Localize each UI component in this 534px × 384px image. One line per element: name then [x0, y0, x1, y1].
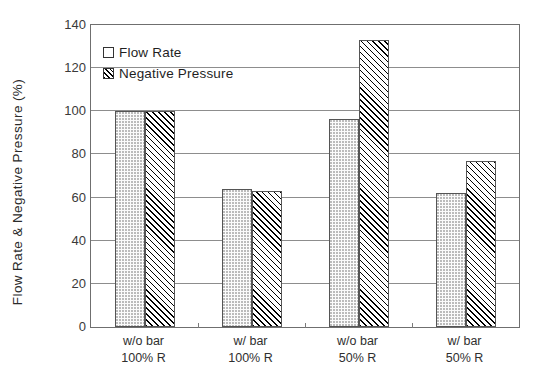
x-label-line-2: 50% R [304, 350, 411, 367]
dotted-square-icon [103, 47, 114, 58]
y-axis-tick-label: 20 [46, 275, 86, 290]
x-label-line-1: w/o bar [337, 334, 378, 348]
legend-item-label: Flow Rate [119, 45, 182, 60]
x-label-line-1: w/ bar [447, 334, 481, 348]
y-axis-tick-label: 120 [46, 60, 86, 75]
y-axis-tick-label: 100 [46, 103, 86, 118]
y-axis-tick-labels: 020406080100120140 [42, 24, 86, 328]
x-label-line-2: 100% R [90, 350, 197, 367]
y-axis-tick-label: 80 [46, 146, 86, 161]
x-axis-category-label: w/o bar100% R [90, 333, 197, 367]
bar-negative-pressure [252, 191, 282, 327]
y-axis-tick-label: 140 [46, 17, 86, 32]
x-axis-category-label: w/ bar100% R [197, 333, 304, 367]
x-axis-category-label: w/o bar50% R [304, 333, 411, 367]
bar-negative-pressure [359, 40, 389, 327]
x-label-line-2: 50% R [411, 350, 518, 367]
y-axis-tick-label: 60 [46, 189, 86, 204]
hatched-square-icon [103, 68, 114, 79]
y-axis-tick-label: 0 [46, 319, 86, 334]
x-axis-category-labels: w/o bar100% Rw/ bar100% Rw/o bar50% Rw/ … [90, 333, 520, 379]
x-axis-tick [305, 323, 306, 328]
legend-item-flow-rate: Flow Rate [103, 42, 303, 62]
bar-flow-rate [222, 189, 252, 327]
bar-chart-figure: Flow Rate & Negative Pressure (%) 020406… [0, 0, 534, 384]
y-axis-tick-label: 40 [46, 232, 86, 247]
x-label-line-2: 100% R [197, 350, 304, 367]
legend-item-label: Negative Pressure [119, 66, 233, 81]
x-label-line-1: w/o bar [123, 334, 164, 348]
bar-flow-rate [436, 193, 466, 327]
x-label-line-1: w/ bar [233, 334, 267, 348]
x-axis-tick [198, 323, 199, 328]
y-axis-title: Flow Rate & Negative Pressure (%) [0, 0, 34, 384]
bar-flow-rate [115, 111, 145, 327]
bar-negative-pressure [145, 111, 175, 327]
legend-item-negative-pressure: Negative Pressure [103, 63, 303, 83]
chart-legend: Flow Rate Negative Pressure [103, 42, 303, 84]
bar-flow-rate [329, 119, 359, 327]
x-axis-category-label: w/ bar50% R [411, 333, 518, 367]
x-axis-tick [412, 323, 413, 328]
bar-negative-pressure [466, 161, 496, 327]
